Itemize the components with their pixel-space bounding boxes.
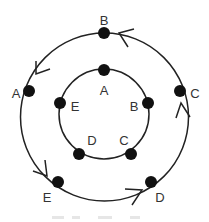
outer-nodes: BCDEA: [12, 13, 200, 205]
outer-node-label: A: [12, 86, 21, 101]
graph-diagram: BCDEA ABCDE: [0, 0, 209, 222]
outer-node-label: D: [155, 190, 164, 205]
outer-cycle: [21, 29, 191, 205]
outer-node-label: B: [100, 13, 109, 28]
inner-node-c: [125, 148, 137, 160]
arrow-icon: [33, 160, 47, 176]
inner-node-a: [98, 64, 110, 76]
outer-node-label: E: [43, 190, 52, 205]
outer-node-a: [23, 85, 35, 97]
outer-node-e: [52, 176, 64, 188]
outer-node-label: C: [190, 86, 199, 101]
inner-node-label: A: [100, 83, 109, 98]
inner-node-d: [73, 148, 85, 160]
inner-node-b: [142, 97, 154, 109]
inner-node-e: [54, 97, 66, 109]
inner-node-label: D: [87, 133, 96, 148]
outer-node-d: [145, 176, 157, 188]
inner-node-label: E: [71, 99, 80, 114]
inner-node-label: C: [119, 133, 128, 148]
outer-node-c: [174, 85, 186, 97]
inner-node-label: B: [130, 99, 139, 114]
caption: [52, 216, 140, 219]
inner-nodes: ABCDE: [54, 64, 154, 160]
outer-node-b: [98, 27, 110, 39]
arrow-icon: [36, 61, 50, 74]
